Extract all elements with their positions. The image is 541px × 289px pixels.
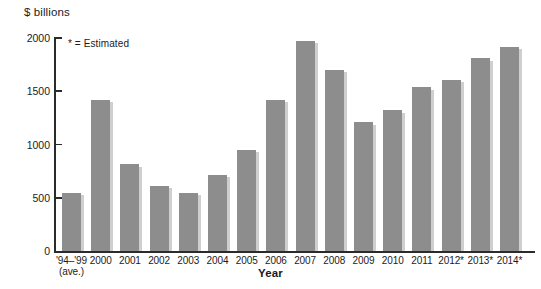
x-axis-title: Year xyxy=(0,267,541,279)
y-axis-tick-label: 500 xyxy=(14,193,50,203)
bar[interactable] xyxy=(179,193,198,251)
bar-shadow xyxy=(81,195,84,251)
bar[interactable] xyxy=(383,110,402,251)
bar-shadow xyxy=(198,195,201,251)
y-axis-tick-label: 1000 xyxy=(14,140,50,150)
bar-shadow xyxy=(402,113,405,251)
y-axis-tick-label-text: 2000 xyxy=(16,33,50,43)
y-axis-tick-label-text: 0 xyxy=(16,246,50,256)
bar-shadow xyxy=(256,152,259,251)
x-axis-tick-label: 2014* xyxy=(488,255,532,266)
bar[interactable] xyxy=(296,41,315,251)
bar-shadow xyxy=(490,61,493,251)
bar-shadow xyxy=(461,82,464,251)
bar-shadow xyxy=(169,188,172,251)
bar[interactable] xyxy=(471,58,490,251)
bar-shadow xyxy=(139,167,142,251)
bar[interactable] xyxy=(120,164,139,251)
y-axis-tick-label: 1500 xyxy=(14,86,50,96)
bar-shadow xyxy=(519,49,522,251)
bar[interactable] xyxy=(237,150,256,251)
y-axis-title: $ billions xyxy=(24,6,70,18)
y-axis-tick-label-text: 500 xyxy=(16,193,50,203)
bar-shadow xyxy=(110,102,113,251)
bar[interactable] xyxy=(412,87,431,251)
bar-shadow xyxy=(315,43,318,251)
y-axis-tick-label-text: 1000 xyxy=(16,140,50,150)
bar[interactable] xyxy=(266,100,285,251)
x-axis-line xyxy=(54,251,535,253)
bar-shadow xyxy=(431,90,434,252)
bar-shadow xyxy=(344,72,347,251)
plot-area xyxy=(54,38,535,251)
x-axis-tick-label-text: 2014* xyxy=(497,255,523,266)
bar[interactable] xyxy=(62,193,81,251)
bar[interactable] xyxy=(442,80,461,251)
bar[interactable] xyxy=(208,175,227,251)
bar[interactable] xyxy=(500,47,519,251)
bar[interactable] xyxy=(325,70,344,251)
bar[interactable] xyxy=(91,100,110,251)
bar[interactable] xyxy=(150,186,169,251)
bar-chart: $ billions * = Estimated 050010001500200… xyxy=(0,0,541,289)
bar-shadow xyxy=(285,102,288,251)
y-axis-tick-label-text: 1500 xyxy=(16,86,50,96)
y-axis-tick-label: 2000 xyxy=(14,33,50,43)
bar[interactable] xyxy=(354,122,373,251)
y-axis-tick-label: 0 xyxy=(14,246,50,256)
bar-shadow xyxy=(373,125,376,251)
bar-shadow xyxy=(227,177,230,251)
